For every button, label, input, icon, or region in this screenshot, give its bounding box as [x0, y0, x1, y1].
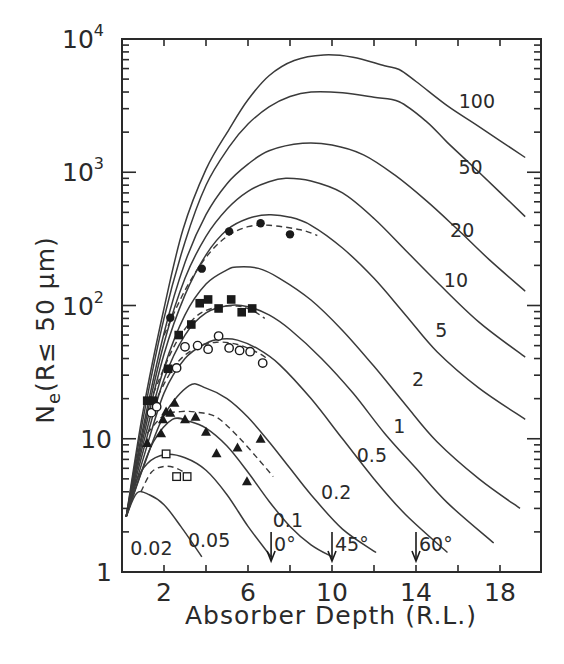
curve-label-20: 20: [450, 219, 474, 241]
arrow-60deg: 60°: [412, 532, 453, 561]
data-point-open-circle: [193, 341, 201, 349]
curve-label-100: 100: [459, 90, 495, 112]
curve-label-2: 2: [412, 368, 424, 390]
y-tick-label: 102: [62, 288, 104, 321]
curve-label-0p2: 0.2: [321, 481, 351, 503]
curve-label-10: 10: [444, 269, 468, 291]
data-point-open-square: [162, 450, 170, 458]
y-tick-label: 104: [62, 21, 104, 54]
data-point-filled-square: [187, 320, 196, 329]
curve-label-0p05: 0.05: [188, 529, 230, 551]
data-point-open-square: [173, 473, 181, 481]
data-point-filled-square: [227, 295, 236, 304]
y-axis-title-main: N: [31, 404, 60, 424]
x-tick-label: 18: [484, 578, 516, 607]
data-point-open-circle: [214, 332, 222, 340]
data-point-filled-triangle: [242, 476, 252, 485]
data-point-filled-circle: [166, 313, 174, 321]
data-point-open-circle: [172, 364, 180, 372]
data-point-filled-square: [214, 304, 223, 313]
data-point-filled-circle: [286, 230, 294, 238]
curve-0p2: [126, 384, 376, 553]
data-point-filled-circle: [256, 219, 264, 227]
y-tick-label: 10: [80, 425, 112, 454]
arrow-45deg: 45°: [328, 532, 369, 561]
data-point-filled-triangle: [212, 448, 222, 457]
data-point-filled-square: [237, 308, 246, 317]
angle-label: 45°: [335, 533, 369, 555]
data-point-open-circle: [181, 343, 189, 351]
data-point-filled-square: [204, 295, 213, 304]
shower-curve-chart: 26101418110102103104 1005020105210.50.20…: [0, 0, 564, 664]
x-tick-label: 2: [156, 578, 172, 607]
x-axis-title: Absorber Depth (R.L.): [185, 601, 477, 630]
curve-label-5: 5: [435, 319, 447, 341]
y-tick-label: 103: [62, 154, 104, 187]
data-point-filled-square: [164, 364, 173, 373]
curve-label-50: 50: [459, 156, 483, 178]
data-point-open-circle: [204, 345, 212, 353]
data-point-filled-square: [174, 331, 183, 340]
data-point-filled-square: [195, 299, 204, 308]
angle-annotations: 0°45°60°: [267, 532, 453, 561]
curve-label-0p1: 0.1: [273, 509, 303, 531]
data-point-filled-circle: [198, 264, 206, 272]
data-point-filled-circle: [225, 227, 233, 235]
y-tick-label: 1: [96, 558, 112, 587]
data-point-open-circle: [235, 346, 243, 354]
data-point-open-circle: [225, 344, 233, 352]
y-axis-title: Ne(R≤ 50 μm): [31, 236, 64, 424]
fit-open-squares: [141, 466, 189, 492]
curve-label-1: 1: [393, 415, 405, 437]
data-point-filled-triangle: [233, 442, 243, 451]
data-point-open-circle: [246, 348, 254, 356]
data-point-open-circle: [259, 359, 267, 367]
curve-labels: 1005020105210.50.20.10.050.02: [130, 90, 495, 558]
arrow-0deg: 0°: [267, 532, 296, 561]
fit-filled-circles: [164, 225, 317, 335]
angle-label: 60°: [419, 533, 453, 555]
data-point-filled-triangle: [170, 398, 180, 407]
angle-label: 0°: [274, 533, 296, 555]
data-point-open-square: [183, 473, 191, 481]
curve-20: [126, 143, 525, 517]
curve-label-0p02: 0.02: [130, 537, 172, 559]
data-point-filled-square: [248, 304, 257, 313]
curve-label-0p5: 0.5: [357, 444, 387, 466]
y-axis-title-sub: e: [43, 392, 64, 404]
data-point-open-circle: [152, 402, 160, 410]
y-axis-title-rest: (R≤ 50 μm): [31, 236, 60, 392]
